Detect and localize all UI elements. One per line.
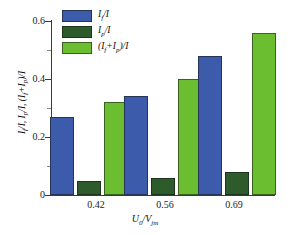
bar-chart-figure: 0.6 0.4 0.2 0 If/I, Ip/I, (If+Ip)/I 0.42… — [0, 0, 290, 235]
x-tick-label-0.56: 0.56 — [137, 199, 193, 210]
y-tick-minor-0.5 — [47, 50, 51, 51]
bar-ip-0.56 — [151, 178, 175, 195]
y-tick-major-0.4 — [45, 79, 51, 80]
y-tick-minor-0.3 — [47, 108, 51, 109]
legend-item-if: If/I — [62, 9, 128, 22]
legend-item-sum: (If+Ip)/I — [62, 41, 128, 54]
bar-if-0.56 — [124, 96, 148, 195]
legend: If/I Ip/I (If+Ip)/I — [62, 9, 128, 54]
bar-ip-0.42 — [77, 181, 101, 196]
bar-ip-0.69 — [225, 172, 249, 195]
x-tick-label-0.42: 0.42 — [68, 199, 124, 210]
legend-label-sum: (If+Ip)/I — [98, 41, 128, 54]
bar-sum-0.69 — [252, 33, 276, 195]
legend-label-ip: Ip/I — [98, 25, 110, 38]
legend-swatch-ip — [62, 26, 92, 38]
y-axis-title: If/I, Ip/I, (If+Ip)/I — [17, 22, 30, 182]
x-axis-line — [51, 195, 275, 196]
bar-if-0.42 — [50, 117, 74, 195]
legend-item-ip: Ip/I — [62, 25, 128, 38]
y-tick-major-0.6 — [45, 21, 51, 22]
legend-swatch-sum — [62, 42, 92, 54]
y-tick-label-0: 0 — [19, 190, 45, 200]
legend-label-if: If/I — [98, 9, 109, 22]
y-tick-major-0 — [45, 195, 51, 196]
x-tick-label-0.69: 0.69 — [206, 199, 262, 210]
x-axis-title: U0/Vjm — [0, 213, 290, 227]
bar-if-0.69 — [198, 56, 222, 195]
legend-swatch-if — [62, 10, 92, 22]
